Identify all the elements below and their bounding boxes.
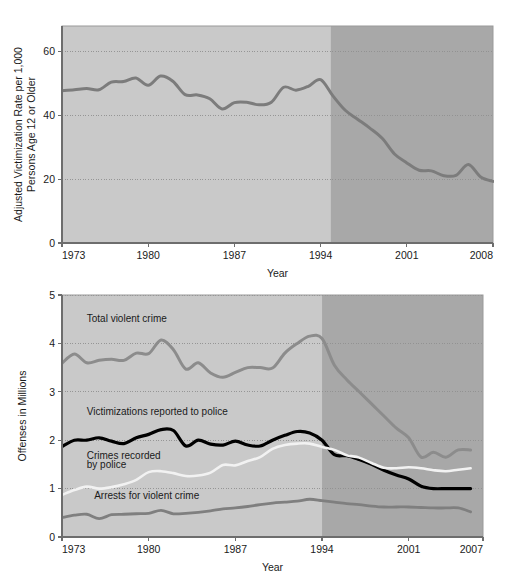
- y-tick-label-4: 4: [49, 337, 55, 349]
- x-tick-label-3: 1994: [310, 543, 334, 555]
- chart-offenses-in-millions: 012345197319801987199420012007YearOffens…: [0, 285, 527, 588]
- series-annotation-1: Victimizations reported to police: [87, 406, 228, 417]
- y-axis-title-line-0: Offenses in Millions: [16, 371, 28, 462]
- y-tick-label-5: 5: [49, 289, 55, 301]
- x-tick-label-5: 2007: [460, 543, 484, 555]
- victimization-rate-plot: 0204060197319801987199420012008YearAdjus…: [0, 0, 527, 285]
- x-tick-label-0: 1973: [62, 543, 86, 555]
- x-tick-label-0: 1973: [62, 249, 86, 261]
- y-axis-title-line-1: Persons Age 12 or Older: [25, 77, 37, 192]
- offenses-in-millions-plot: 012345197319801987199420012007YearOffens…: [0, 285, 527, 588]
- plot-band-1: [322, 295, 483, 537]
- x-tick-label-1: 1980: [137, 249, 161, 261]
- y-tick-label-0: 0: [49, 237, 55, 249]
- y-tick-label-1: 1: [49, 482, 55, 494]
- x-tick-label-4: 2001: [397, 543, 421, 555]
- x-axis-title: Year: [267, 267, 289, 279]
- y-tick-label-3: 60: [43, 45, 55, 57]
- plot-band-0: [62, 26, 330, 243]
- series-annotation-0: Total violent crime: [87, 313, 167, 324]
- x-tick-label-2: 1987: [224, 543, 248, 555]
- figure-root: 0204060197319801987199420012008YearAdjus…: [0, 0, 527, 588]
- x-axis-title: Year: [262, 561, 284, 573]
- y-tick-label-2: 2: [49, 434, 55, 446]
- y-tick-label-1: 20: [43, 173, 55, 185]
- x-tick-label-4: 2001: [395, 249, 419, 261]
- series-annotation-4: Arrests for violent crime: [94, 490, 199, 501]
- chart-victimization-rate: 0204060197319801987199420012008YearAdjus…: [0, 0, 527, 285]
- x-tick-label-2: 1987: [223, 249, 247, 261]
- y-tick-label-2: 40: [43, 109, 55, 121]
- x-tick-label-1: 1980: [137, 543, 161, 555]
- x-tick-label-3: 1994: [309, 249, 333, 261]
- series-annotation-3: by police: [87, 459, 127, 470]
- y-axis-title-line-0: Adjusted Victimization Rate per 1,000: [12, 47, 24, 222]
- y-tick-label-0: 0: [49, 531, 55, 543]
- plot-band-1: [330, 26, 493, 243]
- y-tick-label-3: 3: [49, 386, 55, 398]
- x-tick-label-5: 2008: [470, 249, 494, 261]
